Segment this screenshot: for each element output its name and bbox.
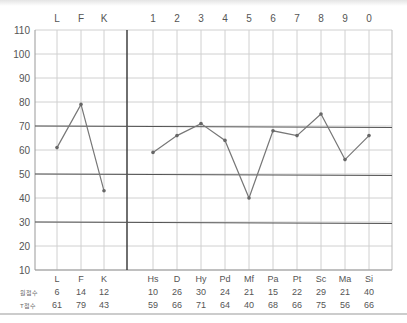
clinical-point xyxy=(343,158,347,162)
scale-name: K xyxy=(101,274,107,284)
y-tick-label: 110 xyxy=(14,25,30,36)
raw-score: 12 xyxy=(99,287,109,297)
raw-score: 10 xyxy=(148,287,158,297)
t-score: 56 xyxy=(340,300,350,310)
y-tick-label: 50 xyxy=(19,169,31,180)
scale-name: Ma xyxy=(339,274,352,284)
t-score: 66 xyxy=(172,300,182,310)
t-score: 75 xyxy=(316,300,326,310)
raw-score: 24 xyxy=(220,287,230,297)
top-label: 0 xyxy=(366,13,372,24)
raw-score: 14 xyxy=(76,287,86,297)
scale-name: Sc xyxy=(316,274,327,284)
top-label: 2 xyxy=(174,13,180,24)
t-score: 68 xyxy=(268,300,278,310)
y-tick-label: 40 xyxy=(19,193,31,204)
scale-name: Pa xyxy=(267,274,278,284)
validity-point xyxy=(102,189,106,193)
t-score: 40 xyxy=(244,300,254,310)
y-tick-label: 10 xyxy=(19,265,31,276)
mmpi-profile-chart: 110100908070605040302010 LFK1234567890 L… xyxy=(0,0,407,323)
top-label: 7 xyxy=(294,13,300,24)
clinical-point xyxy=(247,196,251,200)
t-score: 61 xyxy=(52,300,62,310)
t-score: 66 xyxy=(292,300,302,310)
validity-point xyxy=(55,146,59,150)
scale-name: D xyxy=(174,274,181,284)
clinical-point xyxy=(151,151,155,155)
clinical-point xyxy=(271,129,275,133)
top-label: 6 xyxy=(270,13,276,24)
raw-score: 21 xyxy=(244,287,254,297)
t-score: 66 xyxy=(364,300,374,310)
scale-name: Si xyxy=(365,274,373,284)
raw-score: 15 xyxy=(268,287,278,297)
scale-name: F xyxy=(78,274,84,284)
clinical-point xyxy=(319,112,323,116)
t-score: 71 xyxy=(196,300,206,310)
t-score: 43 xyxy=(99,300,109,310)
top-label: 5 xyxy=(246,13,252,24)
top-label: L xyxy=(54,13,60,24)
reference-lines xyxy=(35,126,392,224)
raw-score: 26 xyxy=(172,287,182,297)
y-axis-ticks: 110100908070605040302010 xyxy=(13,25,30,276)
scale-name: Mf xyxy=(244,274,254,284)
raw-score: 30 xyxy=(196,287,206,297)
y-tick-label: 60 xyxy=(19,145,31,156)
score-table: L661F1479K1243Hs1059D2666Hy3071Pd2464Mf2… xyxy=(20,274,374,310)
y-tick-label: 20 xyxy=(19,241,31,252)
profile-lines xyxy=(55,103,371,200)
scale-name: Hy xyxy=(196,274,207,284)
raw-score: 40 xyxy=(364,287,374,297)
raw-score: 29 xyxy=(316,287,326,297)
validity-point xyxy=(79,103,83,107)
top-label: 9 xyxy=(342,13,348,24)
y-tick-label: 80 xyxy=(19,97,31,108)
raw-score: 21 xyxy=(340,287,350,297)
scale-name: Pd xyxy=(219,274,230,284)
t-score-row-label: T점수 xyxy=(20,303,36,310)
top-label: 8 xyxy=(318,13,324,24)
clinical-point xyxy=(223,139,227,143)
top-scale-numbers: LFK1234567890 xyxy=(54,13,372,24)
scale-name: L xyxy=(54,274,59,284)
clinical-point xyxy=(367,134,371,138)
y-tick-label: 30 xyxy=(19,217,31,228)
clinical-point xyxy=(295,134,299,138)
scale-name: Pt xyxy=(293,274,302,284)
y-tick-label: 100 xyxy=(13,49,30,60)
grid xyxy=(35,30,392,270)
scale-name: Hs xyxy=(148,274,159,284)
top-label: 3 xyxy=(198,13,204,24)
t-score: 64 xyxy=(220,300,230,310)
top-label: 4 xyxy=(222,13,228,24)
t-score: 59 xyxy=(148,300,158,310)
clinical-point xyxy=(199,122,203,126)
clinical-point xyxy=(175,134,179,138)
raw-score: 6 xyxy=(54,287,59,297)
raw-score-row-label: 원점수 xyxy=(20,289,38,297)
t-score: 79 xyxy=(76,300,86,310)
raw-score: 22 xyxy=(292,287,302,297)
top-label: F xyxy=(78,13,84,24)
y-tick-label: 90 xyxy=(19,73,31,84)
top-label: K xyxy=(101,13,108,24)
top-label: 1 xyxy=(150,13,156,24)
y-tick-label: 70 xyxy=(19,121,31,132)
